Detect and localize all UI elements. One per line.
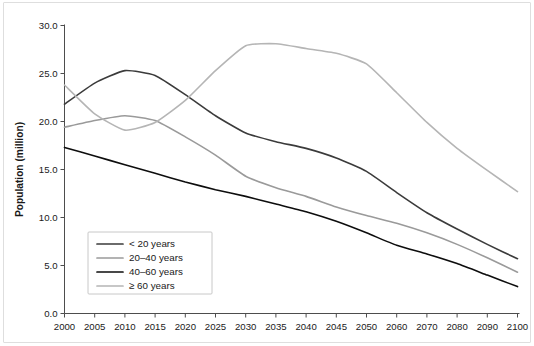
x-tick-label: 2020 xyxy=(175,321,196,332)
x-tick-label: 2090 xyxy=(477,321,498,332)
legend-label-2: 40–60 years xyxy=(129,266,183,277)
y-axis-title: Population (million) xyxy=(14,122,25,217)
x-tick-label: 2080 xyxy=(446,321,467,332)
legend-label-1: 20–40 years xyxy=(129,252,183,263)
y-axis-tick-labels: 0.05.010.015.020.025.030.0 xyxy=(39,20,58,319)
x-tick-label: 2040 xyxy=(295,321,316,332)
series-line-0 xyxy=(65,71,518,259)
y-tick-label: 0.0 xyxy=(44,308,57,319)
series-line-3 xyxy=(65,44,518,192)
x-tick-label: 2010 xyxy=(114,321,135,332)
x-tick-label: 2050 xyxy=(356,321,377,332)
chart-figure: 0.05.010.015.020.025.030.0 2000200520102… xyxy=(0,0,534,346)
x-tick-label: 2100 xyxy=(507,321,528,332)
x-tick-label: 2045 xyxy=(326,321,347,332)
y-axis-title-text: Population (million) xyxy=(14,122,25,217)
y-tick-label: 25.0 xyxy=(39,68,58,79)
y-tick-label: 30.0 xyxy=(39,20,58,31)
x-tick-label: 2070 xyxy=(416,321,437,332)
line-chart: 0.05.010.015.020.025.030.0 2000200520102… xyxy=(0,0,534,346)
x-tick-label: 2005 xyxy=(84,321,105,332)
chart-legend[interactable]: < 20 years20–40 years40–60 years≥ 60 yea… xyxy=(88,232,212,294)
x-tick-label: 2000 xyxy=(54,321,75,332)
x-tick-label: 2025 xyxy=(205,321,226,332)
y-tick-label: 10.0 xyxy=(39,212,58,223)
x-axis-tick-labels: 2000200520102015202020252030203520402045… xyxy=(54,321,528,332)
x-tick-label: 2060 xyxy=(386,321,407,332)
y-tick-label: 20.0 xyxy=(39,116,58,127)
y-tick-label: 5.0 xyxy=(44,260,57,271)
x-tick-label: 2035 xyxy=(265,321,286,332)
legend-label-0: < 20 years xyxy=(129,238,175,249)
y-tick-label: 15.0 xyxy=(39,164,58,175)
x-tick-label: 2015 xyxy=(144,321,165,332)
x-tick-label: 2030 xyxy=(235,321,256,332)
legend-label-3: ≥ 60 years xyxy=(129,280,175,291)
